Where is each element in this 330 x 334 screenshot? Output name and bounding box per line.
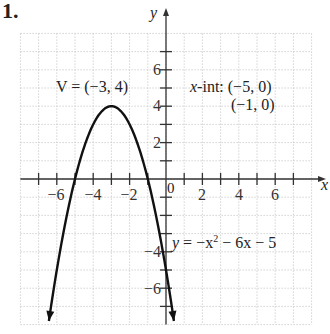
parabola-graph	[0, 0, 330, 334]
y-tick-label: 2	[153, 134, 161, 152]
x-intercept-label: x-int: (−5, 0)	[190, 78, 271, 96]
eq-tail: − 6x − 5	[218, 234, 276, 251]
equation-label: y = −x2 − 6x − 5	[172, 233, 276, 252]
vertex-label: V = (−3, 4)	[56, 78, 128, 96]
y-tick-label: 6	[153, 61, 161, 79]
axes	[20, 8, 326, 325]
vertex-text: V = (−3, 4)	[56, 78, 128, 95]
x-tick-label: 2	[198, 186, 206, 204]
x-tick-label: −4	[84, 186, 101, 204]
y-axis-label: y	[150, 4, 157, 22]
y-tick-label: −4	[144, 243, 161, 261]
x-tick-label: −2	[120, 186, 137, 204]
x-tick-label: 4	[235, 186, 243, 204]
problem-number: 1.	[2, 0, 19, 24]
x-intercept-label-2: (−1, 0)	[231, 96, 275, 114]
x-tick-label: −6	[47, 186, 64, 204]
origin-label: 0	[167, 180, 175, 197]
eq-rest: = −x	[179, 234, 213, 251]
y-tick-label: 4	[153, 97, 161, 115]
y-tick-label: −6	[144, 280, 161, 298]
x-tick-label: 6	[271, 186, 279, 204]
x-int-1: -int: (−5, 0)	[197, 78, 271, 95]
x-axis-label: x	[321, 176, 328, 194]
